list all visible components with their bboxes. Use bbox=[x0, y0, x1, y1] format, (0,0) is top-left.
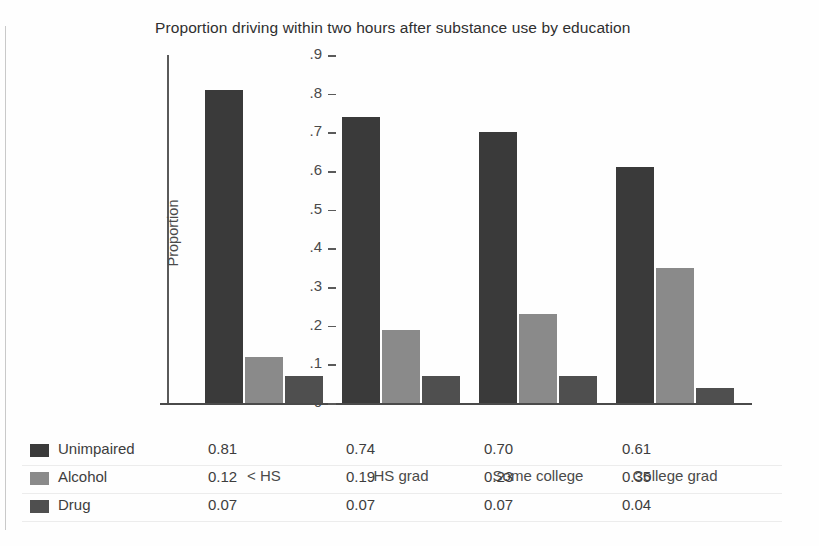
y-tick-label: .1 bbox=[309, 354, 322, 371]
y-tick: .5 bbox=[168, 210, 336, 211]
bar bbox=[205, 90, 243, 403]
y-tick-mark bbox=[328, 132, 336, 134]
legend-value-cell: 0.23 bbox=[484, 468, 513, 485]
y-tick-mark bbox=[328, 403, 336, 405]
bar bbox=[696, 388, 734, 403]
bar bbox=[559, 376, 597, 403]
legend-value-cell: 0.04 bbox=[622, 496, 651, 513]
y-tick: .8 bbox=[168, 94, 336, 95]
legend-value-cell: 0.35 bbox=[622, 468, 651, 485]
chart-figure: Proportion driving within two hours afte… bbox=[0, 0, 819, 546]
y-tick-label: .9 bbox=[309, 45, 322, 62]
bar bbox=[285, 376, 323, 403]
y-tick: 0 bbox=[168, 403, 336, 404]
bar bbox=[382, 330, 420, 403]
plot-area: Proportion 0.1.2.3.4.5.6.7.8.9 < HSHS gr… bbox=[168, 55, 738, 403]
bar bbox=[342, 117, 380, 403]
legend-value-cell: 0.07 bbox=[484, 496, 513, 513]
legend-color-swatch bbox=[30, 500, 49, 513]
legend-value-cell: 0.12 bbox=[208, 468, 237, 485]
y-tick: .9 bbox=[168, 55, 336, 56]
legend-value-cell: 0.81 bbox=[208, 440, 237, 457]
y-tick: .2 bbox=[168, 326, 336, 327]
legend-row: Drug0.070.070.070.04 bbox=[22, 493, 782, 522]
legend-value-cell: 0.70 bbox=[484, 440, 513, 457]
legend-row: Alcohol0.120.190.230.35 bbox=[22, 465, 782, 494]
legend-value-cell: 0.07 bbox=[346, 496, 375, 513]
legend-value-cell: 0.61 bbox=[622, 440, 651, 457]
page-margin-rule bbox=[5, 26, 6, 530]
y-tick-mark bbox=[328, 248, 336, 250]
legend-color-swatch bbox=[30, 472, 49, 485]
y-tick-label: .3 bbox=[309, 277, 322, 294]
legend-series-label: Unimpaired bbox=[58, 440, 135, 457]
bar bbox=[245, 357, 283, 403]
y-tick-label: .5 bbox=[309, 200, 322, 217]
y-tick-label: .2 bbox=[309, 316, 322, 333]
legend-value-cell: 0.19 bbox=[346, 468, 375, 485]
legend-color-swatch bbox=[30, 444, 49, 457]
y-tick-label: .6 bbox=[309, 161, 322, 178]
legend-series-label: Drug bbox=[58, 496, 91, 513]
bar bbox=[422, 376, 460, 403]
y-tick: .7 bbox=[168, 132, 336, 133]
bar bbox=[656, 268, 694, 403]
chart-title: Proportion driving within two hours afte… bbox=[155, 19, 775, 37]
y-tick: .3 bbox=[168, 287, 336, 288]
bar bbox=[616, 167, 654, 403]
y-tick-mark bbox=[328, 287, 336, 289]
y-tick-mark bbox=[328, 171, 336, 173]
y-tick: .4 bbox=[168, 248, 336, 249]
legend-value-table: Unimpaired0.810.740.700.61Alcohol0.120.1… bbox=[22, 437, 782, 521]
y-tick-mark bbox=[328, 55, 336, 57]
y-tick-label: .7 bbox=[309, 122, 322, 139]
legend-row: Unimpaired0.810.740.700.61 bbox=[22, 437, 782, 466]
y-tick-mark bbox=[328, 94, 336, 96]
y-tick: .6 bbox=[168, 171, 336, 172]
y-tick-label: .4 bbox=[309, 238, 322, 255]
legend-series-label: Alcohol bbox=[58, 468, 107, 485]
y-tick-mark bbox=[328, 326, 336, 328]
legend-value-cell: 0.74 bbox=[346, 440, 375, 457]
y-tick-mark bbox=[328, 364, 336, 366]
bar bbox=[479, 132, 517, 403]
legend-value-cell: 0.07 bbox=[208, 496, 237, 513]
bar bbox=[519, 314, 557, 403]
y-tick-label: .8 bbox=[309, 84, 322, 101]
y-tick-mark bbox=[328, 210, 336, 212]
